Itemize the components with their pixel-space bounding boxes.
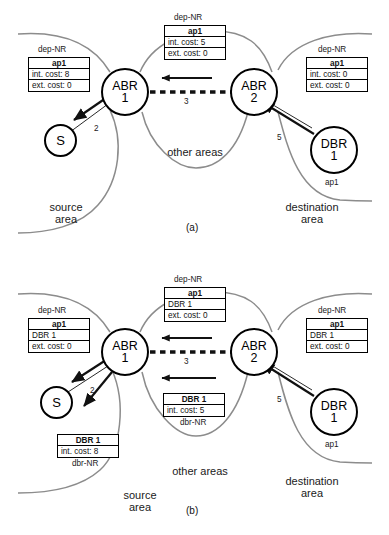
- table-row: ext. cost: 0: [29, 80, 89, 91]
- panel-a-area-label-source: source area: [36, 201, 96, 226]
- label-line1: other areas: [172, 465, 228, 477]
- table-header: DBR 1: [164, 394, 224, 405]
- panel-b-area-label-source: source area: [110, 489, 170, 514]
- table-header: ap1: [165, 288, 225, 299]
- panel-b-edge-label-abr1-abr2: 3: [184, 357, 189, 366]
- panel-b-left-table-caption: dep-NR: [38, 306, 66, 315]
- panel-b-node-abr2: ABR 2: [230, 328, 278, 376]
- node-label-line2: 2: [251, 92, 258, 104]
- panel-a-right-table-caption: dep-NR: [318, 45, 346, 54]
- label-line2: area: [301, 213, 323, 225]
- table-row: ext. cost: 0: [29, 341, 89, 352]
- node-label-line1: S: [56, 135, 65, 147]
- table-row: ext. cost: 0: [307, 341, 367, 352]
- table-header: ap1: [165, 26, 225, 37]
- panel-b-center-top-table-caption: dep-NR: [174, 275, 202, 284]
- node-label-line2: 1: [122, 352, 129, 364]
- table-header: ap1: [307, 58, 367, 69]
- label-line2: area: [55, 213, 77, 225]
- table-row: int. cost: 5: [164, 405, 224, 416]
- node-label-line2: 2: [251, 352, 258, 364]
- table-header: ap1: [29, 58, 89, 69]
- panel-b-center-lower-table-caption: dbr-NR: [180, 418, 206, 427]
- table-row: int. cost: 5: [165, 37, 225, 48]
- table-row: DBR 1: [29, 330, 89, 341]
- panel-a-node-dbr1: DBR 1: [310, 126, 358, 174]
- panel-a-left-table-caption: dep-NR: [38, 45, 66, 54]
- panel-b-node-abr1: ABR 1: [101, 328, 149, 376]
- panel-a-center-table: ap1 int. cost: 5 ext. cost: 0: [164, 25, 226, 60]
- panel-b-edge-label-dbr1-abr2: 5: [277, 395, 282, 404]
- panel-a-tag: (a): [186, 222, 198, 233]
- table-header: ap1: [29, 319, 89, 330]
- node-label-line2: 1: [331, 150, 338, 162]
- panel-a-right-table: ap1 int. cost: 0 ext. cost: 0: [306, 57, 368, 92]
- panel-a-edge-label-dbr1-abr2: 5: [277, 133, 282, 142]
- panel-a-center-table-caption: dep-NR: [174, 13, 202, 22]
- panel-a-left-table: ap1 int. cost: 8 ext. cost: 0: [28, 57, 90, 92]
- table-header: DBR 1: [58, 435, 118, 446]
- label-line1: source: [49, 201, 82, 213]
- panel-b-area-label-destination: destination area: [269, 475, 355, 500]
- figure-canvas: dep-NR ap1 int. cost: 8 ext. cost: 0 dep…: [0, 0, 389, 535]
- node-label-line1: S: [52, 397, 61, 409]
- panel-b-bottom-left-table-caption: dbr-NR: [72, 459, 98, 468]
- table-row: int. cost: 8: [58, 446, 118, 457]
- panel-b-left-table: ap1 DBR 1 ext. cost: 0: [28, 318, 90, 353]
- panel-a-dbr1-ap1-tag: ap1: [325, 178, 339, 187]
- panel-b-dbr1-ap1-tag: ap1: [325, 440, 339, 449]
- panel-a-area-label-other: other areas: [143, 146, 247, 158]
- label-line2: area: [129, 501, 151, 513]
- panel-b-area-label-other: other areas: [148, 465, 252, 477]
- label-line1: other areas: [167, 146, 223, 158]
- panel-b-node-s: S: [40, 386, 73, 419]
- table-row: ext. cost: 0: [307, 80, 367, 91]
- panel-b-edge-label-abr1-s: 2: [90, 386, 95, 395]
- table-row: int. cost: 0: [307, 69, 367, 80]
- table-row: ext. cost: 0: [165, 48, 225, 59]
- table-row: int. cost: 8: [29, 69, 89, 80]
- panel-a-node-s: S: [44, 124, 77, 157]
- panel-b-right-table: ap1 DBR 1 ext. cost: 0: [306, 318, 368, 353]
- label-line2: area: [301, 487, 323, 499]
- panel-a-node-abr1: ABR 1: [101, 68, 149, 116]
- table-row: DBR 1: [307, 330, 367, 341]
- table-row: ext. cost: 0: [165, 310, 225, 321]
- label-line1: source: [123, 489, 156, 501]
- table-header: ap1: [307, 319, 367, 330]
- node-label-line2: 1: [331, 412, 338, 424]
- panel-b-tag: (b): [186, 505, 198, 516]
- table-row: DBR 1: [165, 299, 225, 310]
- label-line1: destination: [285, 201, 338, 213]
- panel-b-right-table-caption: dep-NR: [318, 306, 346, 315]
- panel-a-node-abr2: ABR 2: [230, 68, 278, 116]
- panel-b-bottom-left-table: DBR 1 int. cost: 8: [57, 434, 119, 458]
- panel-a-edge-label-abr1-abr2: 3: [184, 97, 189, 106]
- node-label-line2: 1: [122, 92, 129, 104]
- panel-b-node-dbr1: DBR 1: [310, 388, 358, 436]
- panel-b-center-top-table: ap1 DBR 1 ext. cost: 0: [164, 287, 226, 322]
- panel-a-edge-label-abr1-s: 2: [94, 124, 99, 133]
- panel-b-center-lower-table: DBR 1 int. cost: 5: [163, 393, 225, 417]
- label-line1: destination: [285, 475, 338, 487]
- panel-a-area-label-destination: destination area: [269, 201, 355, 226]
